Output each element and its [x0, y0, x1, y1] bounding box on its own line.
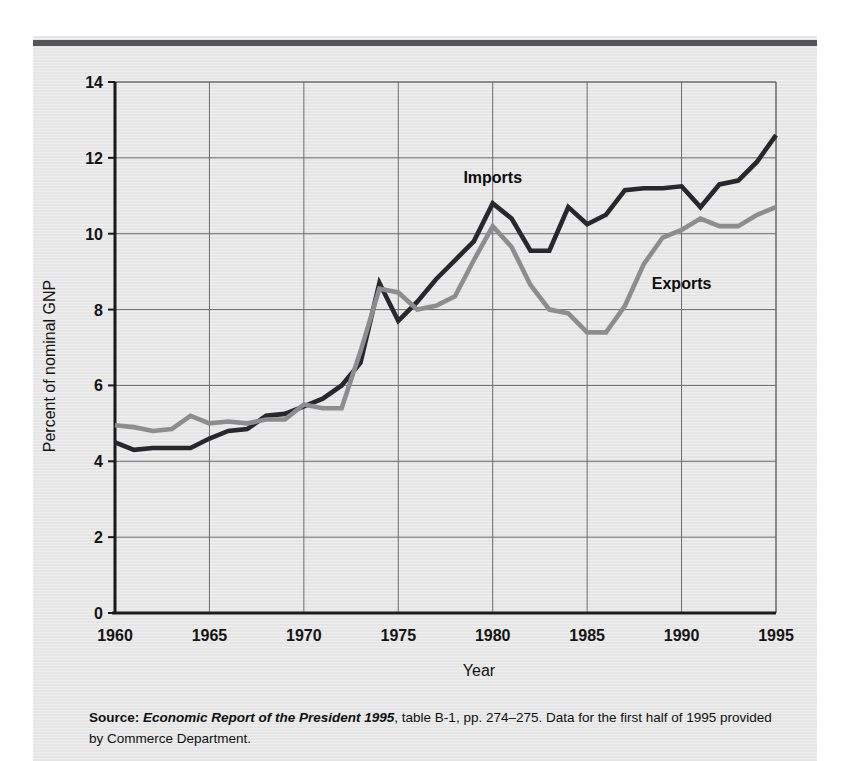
- plot-frame: [112, 82, 776, 613]
- gridlines: [115, 82, 776, 613]
- x-tick-label: 1985: [569, 627, 605, 644]
- x-axis-title: Year: [463, 662, 496, 679]
- y-tick-label: 10: [85, 226, 103, 243]
- line-chart: 02468101214 1960196519701975198019851990…: [33, 36, 817, 696]
- y-tick-label: 2: [94, 529, 103, 546]
- source-label: Source:: [89, 710, 139, 725]
- y-tick-label: 12: [85, 150, 103, 167]
- y-tick-label: 14: [85, 74, 103, 91]
- figure-panel: 02468101214 1960196519701975198019851990…: [33, 36, 817, 761]
- annotation-imports: Imports: [463, 169, 522, 186]
- y-tick-label: 6: [94, 377, 103, 394]
- annotation-exports: Exports: [652, 275, 712, 292]
- x-tick-label: 1960: [97, 627, 133, 644]
- figure-page: 02468101214 1960196519701975198019851990…: [0, 0, 856, 761]
- source-publication: Economic Report of the President 1995: [143, 710, 394, 725]
- x-tick-label: 1995: [758, 627, 794, 644]
- y-tick-label: 4: [94, 453, 103, 470]
- chart-container: 02468101214 1960196519701975198019851990…: [33, 36, 817, 696]
- x-tick-label: 1965: [192, 627, 228, 644]
- y-axis-title: Percent of nominal GNP: [41, 280, 58, 453]
- x-tick-label: 1970: [286, 627, 322, 644]
- x-tick-label: 1975: [380, 627, 416, 644]
- series-line-imports: [115, 135, 776, 450]
- series-line-exports: [115, 207, 776, 431]
- source-note: Source: Economic Report of the President…: [89, 708, 789, 750]
- y-tick-labels: 02468101214: [85, 74, 115, 622]
- y-tick-label: 8: [94, 302, 103, 319]
- y-tick-label: 0: [94, 605, 103, 622]
- data-series-group: [115, 135, 776, 450]
- x-tick-label: 1990: [664, 627, 700, 644]
- header-rule: [33, 40, 817, 46]
- x-tick-label: 1980: [475, 627, 511, 644]
- x-tick-labels: 19601965197019751980198519901995: [97, 627, 794, 644]
